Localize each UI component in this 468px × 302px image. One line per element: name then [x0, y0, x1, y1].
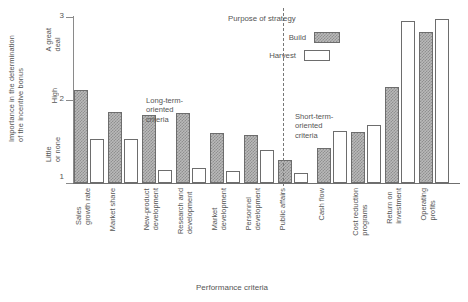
bar-build[interactable]	[210, 133, 224, 183]
y-tick-1	[66, 183, 73, 184]
y-axis-title: Importance in the determination of the i…	[7, 35, 25, 144]
x-label-10: Operating profits	[420, 188, 437, 220]
x-label-2: New-product development	[143, 188, 160, 230]
bar-harvest[interactable]	[158, 170, 172, 183]
bar-harvest[interactable]	[192, 168, 206, 183]
y-axis-title-text: Importance in the determination of the i…	[7, 35, 25, 142]
bar-harvest[interactable]	[435, 19, 449, 183]
bar-build[interactable]	[244, 135, 258, 183]
legend-label-harvest: Harvest	[252, 51, 296, 60]
y-category-label-little-or-none: Little or none	[44, 137, 62, 164]
x-label-4: Market development	[211, 188, 228, 230]
bar-group	[210, 17, 240, 183]
bar-harvest[interactable]	[401, 21, 415, 183]
y-category-label-great-deal: A great deal	[44, 28, 62, 53]
bar-group	[419, 17, 449, 183]
bar-build[interactable]	[419, 32, 433, 183]
bar-harvest[interactable]	[333, 131, 347, 183]
bar-harvest[interactable]	[90, 139, 104, 183]
x-axis-title: Performance criteria	[196, 283, 268, 292]
y-tick-3	[66, 17, 73, 18]
bar-harvest[interactable]	[260, 150, 274, 183]
bar-harvest[interactable]	[226, 171, 240, 183]
bar-build[interactable]	[108, 112, 122, 183]
bar-build[interactable]	[385, 87, 399, 183]
bar-harvest[interactable]	[294, 173, 308, 183]
y-tick-label-3: 3	[52, 11, 64, 20]
bar-build[interactable]	[317, 148, 331, 183]
y-tick-label-2: 2	[52, 94, 64, 103]
bar-group	[385, 17, 415, 183]
legend-swatch-build-icon	[314, 32, 340, 43]
legend-item-harvest[interactable]: Harvest	[252, 50, 330, 61]
bar-chart: Importance in the determination of the i…	[0, 0, 468, 302]
x-label-8: Cost reduction programs	[352, 188, 369, 236]
legend-item-build[interactable]: Build	[262, 32, 340, 43]
x-label-5: Personnel development	[245, 188, 262, 230]
y-tick-2	[66, 100, 73, 101]
legend-title: Purpose of strategy	[228, 14, 296, 23]
x-axis-line	[73, 183, 460, 184]
x-label-3: Research and development	[177, 188, 194, 234]
x-label-0: Sales growth rate	[75, 188, 92, 225]
x-label-7: Cash flow	[318, 188, 327, 220]
annotation-short-term: Short-term- oriented criteria	[295, 112, 333, 140]
bar-group	[108, 17, 138, 183]
bar-group	[74, 17, 104, 183]
legend-label-build: Build	[262, 33, 306, 42]
bar-harvest[interactable]	[124, 139, 138, 183]
y-tick-label-1: 1	[52, 172, 64, 181]
x-label-9: Return on investment	[386, 188, 403, 224]
bar-build[interactable]	[142, 115, 156, 183]
legend-swatch-harvest-icon	[304, 50, 330, 61]
x-label-6: Public affairs	[279, 188, 288, 230]
annotation-long-term: Long-term- oriented criteria	[146, 96, 183, 124]
bar-group	[351, 17, 381, 183]
x-label-1: Market share	[109, 188, 118, 231]
bar-build[interactable]	[74, 90, 88, 183]
bar-harvest[interactable]	[367, 125, 381, 183]
bar-build[interactable]	[278, 160, 292, 183]
bar-build[interactable]	[351, 132, 365, 183]
